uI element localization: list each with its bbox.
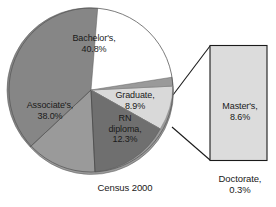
figure-caption-census: Census 2000 bbox=[85, 183, 165, 194]
callout-connector-bottom-line bbox=[172, 127, 210, 160]
slice-label-associates: Associate's, 38.0% bbox=[14, 100, 86, 121]
callout-connector-lines bbox=[172, 46, 210, 160]
callout-connector-top-line bbox=[173, 46, 210, 95]
callout-label-masters: Master's, 8.6% bbox=[209, 101, 271, 122]
slice-label-rn-diploma: RN diploma, 12.3% bbox=[98, 113, 152, 145]
figure-container: Bachelor's, 40.8% Associate's, 38.0% Gra… bbox=[0, 0, 276, 207]
slice-label-bachelors: Bachelor's, 40.8% bbox=[60, 33, 128, 54]
callout-label-doctorate: Doctorate, 0.3% bbox=[205, 174, 275, 195]
slice-label-graduate: Graduate, 8.9% bbox=[105, 90, 165, 111]
